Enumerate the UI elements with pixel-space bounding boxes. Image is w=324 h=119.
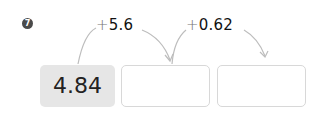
answer-box-1[interactable] — [121, 65, 210, 107]
step-1-operand: 5.6 — [109, 16, 133, 34]
plus-sign: + — [96, 16, 109, 34]
step-2-operand: 0.62 — [199, 16, 233, 34]
step-1-operation: +5.6 — [96, 16, 133, 34]
plus-sign: + — [186, 16, 199, 34]
answer-box-2[interactable] — [217, 65, 306, 107]
arc-step-1 — [78, 28, 96, 64]
arc-step-2 — [172, 30, 186, 64]
arc-step-2-end — [244, 30, 265, 56]
step-2-operation: +0.62 — [186, 16, 233, 34]
start-value-box: 4.84 — [40, 65, 115, 107]
